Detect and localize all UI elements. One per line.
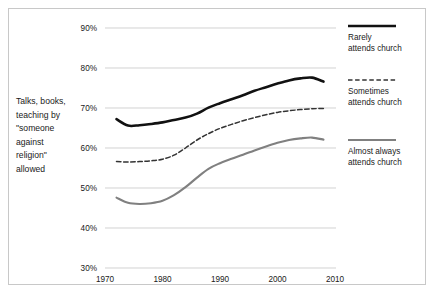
- x-axis-tick-label: 2010: [326, 275, 345, 284]
- x-axis-tick-label: 1990: [211, 275, 230, 284]
- legend-label-0: Rarely: [348, 33, 373, 42]
- y-axis-tick-label: 70%: [81, 104, 97, 113]
- y-axis-tick-label: 30%: [81, 264, 97, 273]
- chart-figure: 30%40%50%60%70%80%90%1970198019902000201…: [0, 0, 435, 295]
- y-axis-tick-label: 90%: [81, 24, 97, 33]
- side-axis-label: against: [16, 137, 44, 147]
- series-line-2: [117, 138, 324, 204]
- legend-label-1: attends church: [348, 98, 402, 107]
- legend-label-2: attends church: [348, 158, 402, 167]
- side-axis-label: "someone: [16, 123, 55, 133]
- series-line-0: [117, 77, 324, 126]
- y-axis-tick-label: 50%: [81, 184, 97, 193]
- y-axis-tick-label: 80%: [81, 64, 97, 73]
- line-chart: 30%40%50%60%70%80%90%1970198019902000201…: [0, 0, 435, 295]
- x-axis-tick-label: 1970: [96, 275, 115, 284]
- side-axis-label: Talks, books,: [16, 96, 66, 106]
- legend-label-0: attends church: [348, 44, 402, 53]
- side-axis-label: allowed: [16, 164, 45, 174]
- y-axis-tick-label: 60%: [81, 144, 97, 153]
- side-axis-label: religion": [16, 150, 47, 160]
- side-axis-label: teaching by: [16, 110, 61, 120]
- y-axis-tick-label: 40%: [81, 224, 97, 233]
- legend-label-1: Sometimes: [348, 87, 389, 96]
- legend-label-2: Almost always: [348, 147, 400, 156]
- series-line-1: [117, 108, 324, 162]
- x-axis-tick-label: 2000: [268, 275, 287, 284]
- x-axis-tick-label: 1980: [153, 275, 172, 284]
